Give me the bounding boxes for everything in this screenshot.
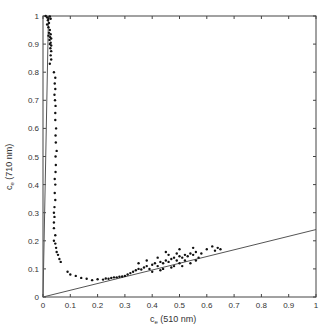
data-point <box>54 234 56 236</box>
data-point <box>49 29 51 31</box>
data-point <box>54 171 56 173</box>
data-point <box>54 88 56 90</box>
data-point <box>66 271 68 273</box>
data-point <box>53 71 55 73</box>
data-point <box>80 277 82 279</box>
data-point <box>167 254 169 256</box>
data-point <box>176 259 178 261</box>
data-point <box>69 273 71 275</box>
data-point <box>176 252 178 254</box>
data-point <box>159 269 161 271</box>
data-point <box>121 275 123 277</box>
data-point <box>50 44 52 46</box>
x-tick-label: 0.9 <box>283 301 295 310</box>
data-point <box>170 266 172 268</box>
data-point <box>53 227 55 229</box>
data-point <box>129 272 131 274</box>
data-point <box>54 155 56 157</box>
y-tick-label: 0.4 <box>28 181 40 190</box>
x-axis-ticks: 00.10.20.30.40.50.60.70.80.91 <box>41 16 319 310</box>
x-tick-label: 0 <box>41 301 46 310</box>
data-point <box>143 266 145 268</box>
data-point <box>50 50 52 52</box>
data-point <box>55 150 57 152</box>
y-tick-label: 0.6 <box>28 124 40 133</box>
data-point <box>54 105 56 107</box>
data-point <box>55 251 57 253</box>
data-point <box>54 99 56 101</box>
reference-lines <box>43 16 316 297</box>
data-point <box>53 221 55 223</box>
data-point <box>219 248 221 250</box>
x-tick-label: 0.3 <box>119 301 131 310</box>
data-point <box>53 93 55 95</box>
data-point <box>189 252 191 254</box>
data-point <box>48 22 50 24</box>
data-point <box>55 141 57 143</box>
data-point <box>195 251 197 253</box>
x-tick-label: 0.2 <box>92 301 104 310</box>
data-point <box>186 255 188 257</box>
data-point <box>162 262 164 264</box>
data-point <box>200 252 202 254</box>
data-point <box>105 277 107 279</box>
data-point <box>167 261 169 263</box>
data-point <box>58 258 60 260</box>
data-point <box>192 247 194 249</box>
x-tick-label: 1 <box>314 301 319 310</box>
data-point <box>135 269 137 271</box>
data-point <box>165 259 167 261</box>
data-point <box>53 240 55 242</box>
data-point <box>50 58 52 60</box>
x-tick-label: 0.8 <box>256 301 268 310</box>
data-point <box>181 265 183 267</box>
data-point <box>49 15 51 17</box>
data-point <box>60 261 62 263</box>
data-point <box>54 192 56 194</box>
data-point <box>173 265 175 267</box>
x-tick-label: 0.4 <box>147 301 159 310</box>
data-point <box>162 268 164 270</box>
data-point <box>156 265 158 267</box>
data-point <box>54 183 56 185</box>
data-point <box>173 256 175 258</box>
y-tick-label: 0.3 <box>28 209 40 218</box>
data-point <box>47 26 49 28</box>
x-tick-label: 0.6 <box>201 301 213 310</box>
data-point <box>49 54 51 56</box>
data-point <box>75 275 77 277</box>
data-point <box>53 206 55 208</box>
data-point <box>54 178 56 180</box>
data-point <box>154 262 156 264</box>
data-point <box>54 242 56 244</box>
data-point <box>124 275 126 277</box>
data-point <box>55 127 57 129</box>
scatter-chart: 00.10.20.30.40.50.60.70.80.91 00.10.20.3… <box>0 0 329 332</box>
data-point <box>110 277 112 279</box>
data-point <box>211 245 213 247</box>
data-point <box>49 47 51 49</box>
data-point <box>96 278 98 280</box>
y-tick-label: 0.1 <box>28 265 40 274</box>
data-point <box>184 254 186 256</box>
data-point <box>132 271 134 273</box>
data-point <box>137 262 139 264</box>
data-point <box>47 19 49 21</box>
data-points <box>45 15 222 282</box>
data-point <box>192 254 194 256</box>
data-point <box>189 262 191 264</box>
data-point <box>57 254 59 256</box>
y-tick-label: 0 <box>35 293 40 302</box>
data-point <box>178 262 180 264</box>
data-point <box>148 268 150 270</box>
data-point <box>214 249 216 251</box>
data-point <box>55 247 57 249</box>
data-point <box>140 268 142 270</box>
data-point <box>178 255 180 257</box>
data-point <box>54 199 56 201</box>
data-point <box>159 261 161 263</box>
y-tick-label: 0.5 <box>28 153 40 162</box>
data-point <box>48 39 50 41</box>
data-point <box>53 216 55 218</box>
x-tick-label: 0.1 <box>65 301 77 310</box>
